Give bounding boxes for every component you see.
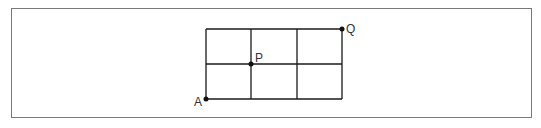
point-q-dot <box>340 27 345 32</box>
point-a: A <box>194 95 209 109</box>
grid-lines <box>206 29 342 99</box>
point-a-dot <box>204 97 209 102</box>
point-q-label: Q <box>346 22 355 36</box>
point-p-dot <box>249 62 254 67</box>
point-a-label: A <box>194 95 202 109</box>
grid-diagram: A P Q <box>0 0 541 128</box>
point-p-label: P <box>255 51 263 65</box>
